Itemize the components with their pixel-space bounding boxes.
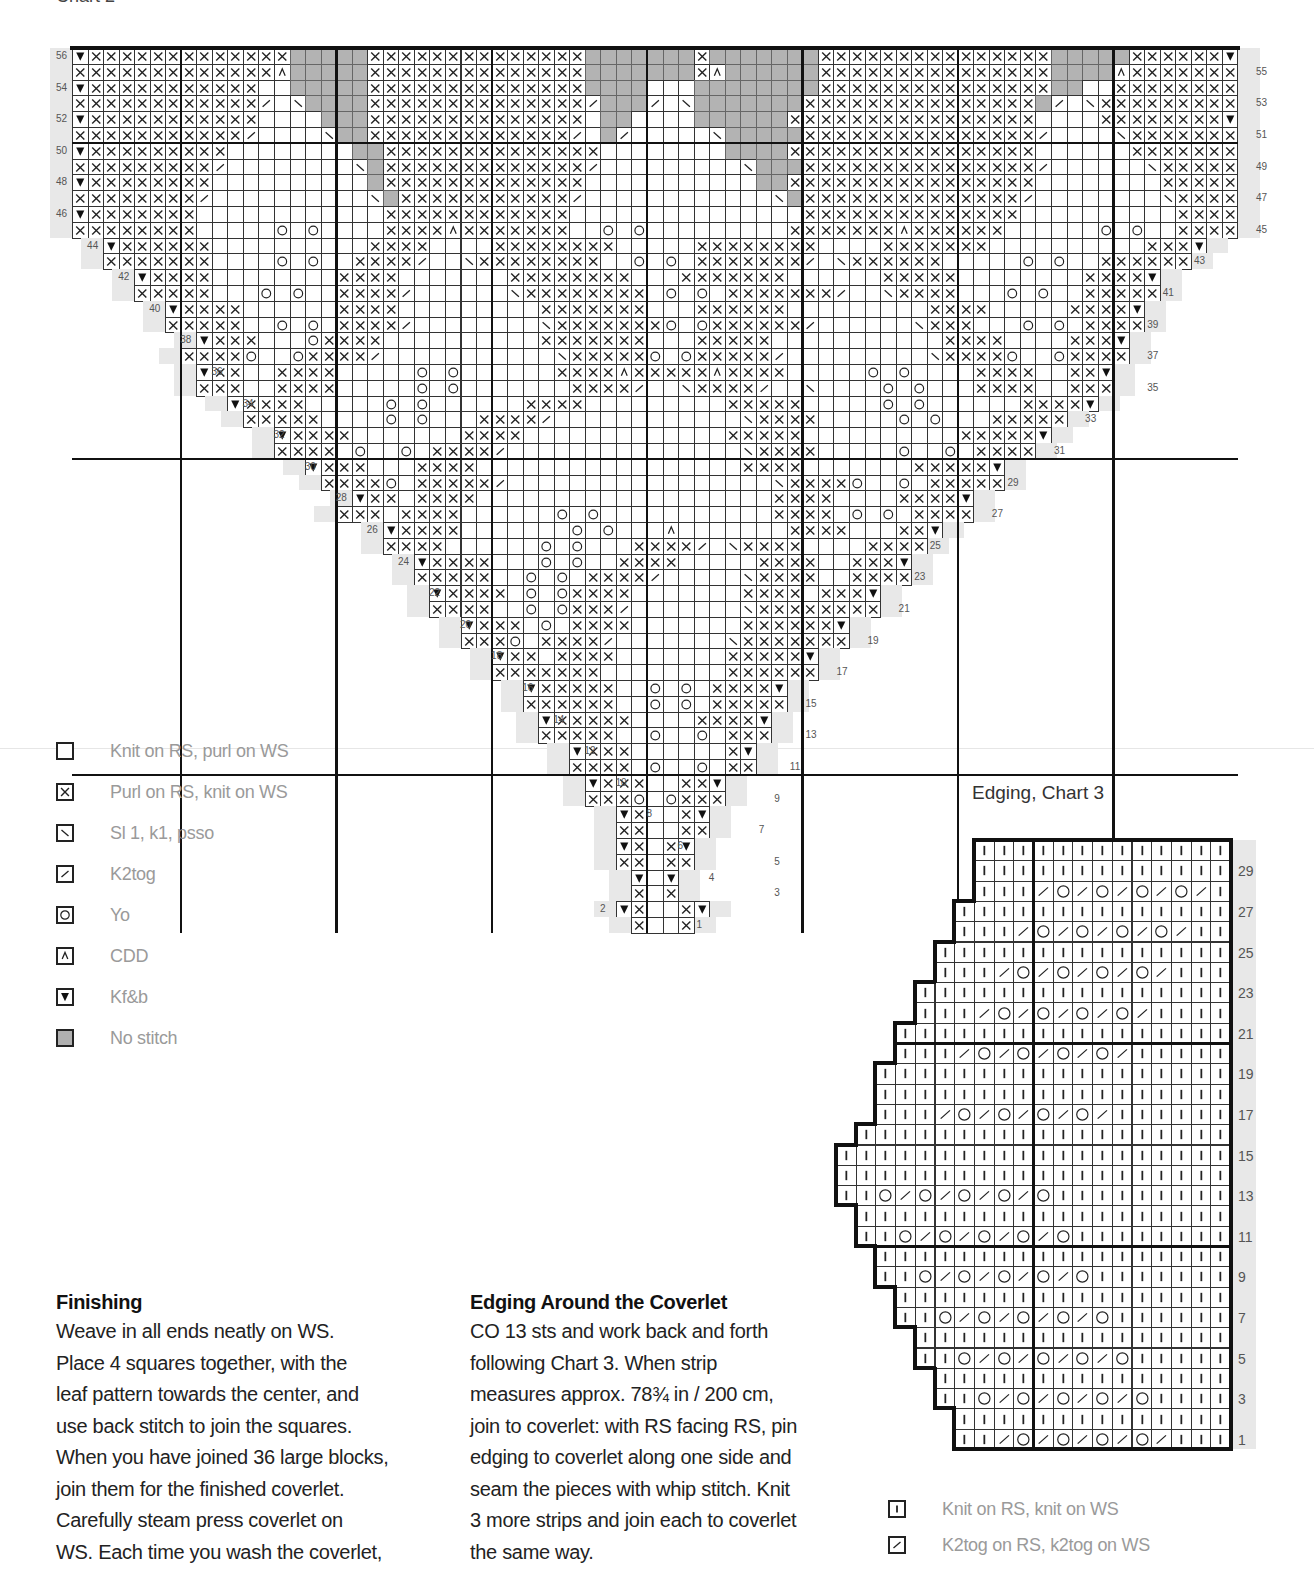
stitch-purl <box>585 380 602 397</box>
stitch-purl <box>134 285 151 302</box>
stitch-yo <box>1092 962 1113 983</box>
stitch-purl <box>694 364 711 381</box>
stitch-no-stitch <box>740 111 757 128</box>
stitch-purl <box>507 427 524 444</box>
stitch-purl <box>833 64 850 81</box>
row-number: 19 <box>1238 1067 1254 1081</box>
stitch-purl <box>414 80 431 97</box>
stitch-knit <box>1082 190 1099 207</box>
stitch-purl <box>305 348 322 365</box>
stitch-knit <box>305 238 322 255</box>
stitch-purl <box>818 601 835 618</box>
stitch-knit <box>274 111 291 128</box>
stitch-purl <box>414 569 431 586</box>
stitch-kfb <box>833 617 850 634</box>
stitch-knit-both <box>974 942 995 963</box>
stitch-knit <box>383 427 400 444</box>
stitch-yo <box>1013 1388 1034 1409</box>
stitch-purl <box>507 190 524 207</box>
stitch-kfb <box>802 648 819 665</box>
stitch-purl <box>507 648 524 665</box>
stitch-knit-both <box>954 1327 975 1348</box>
stitch-knit <box>647 159 664 176</box>
stitch-purl <box>802 222 819 239</box>
stitch-knit-both <box>1092 1368 1113 1389</box>
stitch-knit <box>616 680 633 697</box>
stitch-purl <box>911 253 928 270</box>
stitch-knit <box>647 411 664 428</box>
stitch-knit-both <box>856 1185 877 1206</box>
stitch-purl <box>709 791 726 808</box>
stitch-knit <box>694 490 711 507</box>
stitch-knit <box>896 427 913 444</box>
stitch-purl <box>1004 143 1021 160</box>
stitch-purl <box>865 143 882 160</box>
stitch-k2tog <box>1053 1266 1074 1287</box>
stitch-knit <box>818 238 835 255</box>
stitch-purl <box>1175 253 1192 270</box>
stitch-knit <box>212 206 229 223</box>
stitch-purl <box>383 269 400 286</box>
stitch-knit-both <box>836 1165 857 1186</box>
stitch-knit <box>802 427 819 444</box>
stitch-knit-both <box>1033 1368 1054 1389</box>
stitch-knit <box>429 269 446 286</box>
stitch-no-stitch <box>678 48 695 65</box>
stitch-knit-both <box>974 982 995 1003</box>
stitch-purl <box>1175 238 1192 255</box>
stitch-purl <box>694 380 711 397</box>
stitch-purl <box>771 617 788 634</box>
chart-border-left <box>972 859 976 881</box>
stitch-purl <box>709 253 726 270</box>
stitch-purl <box>1020 411 1037 428</box>
stitch-purl <box>989 80 1006 97</box>
stitch-purl <box>771 585 788 602</box>
stitch-purl <box>896 238 913 255</box>
stitch-knit <box>585 554 602 571</box>
stitch-purl <box>119 48 136 65</box>
stitch-purl <box>756 633 773 650</box>
stitch-purl <box>492 664 509 681</box>
finishing-line: Weave in all ends neatly on WS. <box>56 1316 436 1348</box>
stitch-purl <box>538 174 555 191</box>
stitch-knit <box>880 427 897 444</box>
stitch-no-stitch <box>600 80 617 97</box>
stitch-purl <box>958 159 975 176</box>
stitch-knit <box>818 380 835 397</box>
stitch-purl <box>973 301 990 318</box>
stitch-purl <box>600 775 617 792</box>
stitch-purl <box>865 569 882 586</box>
stitch-purl <box>1082 301 1099 318</box>
stitch-purl <box>927 159 944 176</box>
stitch-yo <box>954 1266 975 1287</box>
stitch-purl <box>678 901 695 918</box>
stitch-purl <box>181 238 198 255</box>
stitch-purl <box>818 64 835 81</box>
stitch-purl <box>181 285 198 302</box>
stitch-knit <box>647 775 664 792</box>
stitch-purl <box>740 459 757 476</box>
stitch-purl <box>927 269 944 286</box>
stitch-knit <box>258 174 275 191</box>
stitch-knit-both <box>1112 1124 1133 1145</box>
stitch-knit <box>833 490 850 507</box>
stitch-knit-both <box>1053 840 1074 861</box>
stitch-knit-both <box>1033 1165 1054 1186</box>
stitch-purl <box>973 190 990 207</box>
stitch-purl <box>88 95 105 112</box>
stitch-knit-both <box>1013 1408 1034 1429</box>
stitch-knit-both <box>1151 840 1172 861</box>
stitch-purl <box>507 159 524 176</box>
stitch-purl <box>274 380 291 397</box>
stitch-knit <box>600 506 617 523</box>
stitch-knit-both <box>1112 901 1133 922</box>
stitch-purl <box>1175 111 1192 128</box>
stitch-purl <box>585 317 602 334</box>
stitch-knit <box>538 348 555 365</box>
stitch-knit <box>647 885 664 902</box>
stitch-knit <box>445 269 462 286</box>
stitch-knit <box>663 222 680 239</box>
stitch-yo <box>1053 1043 1074 1064</box>
stitch-knit <box>709 569 726 586</box>
stitch-purl <box>771 269 788 286</box>
